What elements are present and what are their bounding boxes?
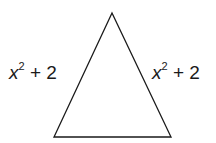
right-side-label: x2 + 2	[152, 63, 200, 82]
variable: x	[152, 62, 162, 83]
constant-term: + 2	[173, 62, 200, 83]
variable: x	[9, 62, 19, 83]
exponent: 2	[19, 60, 25, 72]
left-side-label: x2 + 2	[9, 63, 57, 82]
constant-term: + 2	[30, 62, 57, 83]
exponent: 2	[162, 60, 168, 72]
